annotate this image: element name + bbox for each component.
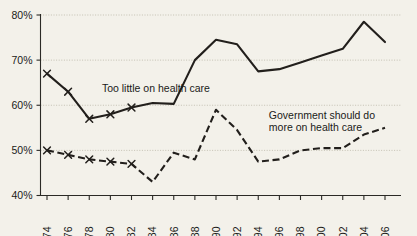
x-tick-label: 1992 <box>231 226 243 236</box>
chart-page: 80%70%60%50%40% 197419761978198019821984… <box>0 0 417 236</box>
x-tick-label: 1998 <box>294 226 306 236</box>
x-tick-label: 1988 <box>189 226 201 236</box>
y-tick-label: 60% <box>11 99 32 111</box>
annotation-too-little-on-health-care: Too little on health care <box>102 82 210 94</box>
x-tick-label: 1996 <box>273 226 285 236</box>
x-tick-label: 2004 <box>358 226 370 236</box>
line-chart: 80%70%60%50%40% 197419761978198019821984… <box>0 0 417 236</box>
annotation-more-on-health-care: more on health care <box>269 121 363 133</box>
x-tick-label: 1994 <box>252 226 264 236</box>
annotation-government-should-do: Government should do <box>269 109 375 121</box>
x-tick-label: 1982 <box>125 226 137 236</box>
x-tick-label: 2002 <box>337 226 349 236</box>
y-tick-label: 40% <box>11 189 32 201</box>
y-tick-label: 80% <box>11 9 32 21</box>
x-tick-label: 1986 <box>168 226 180 236</box>
x-tick-label: 1974 <box>41 226 53 236</box>
y-tick-label: 70% <box>11 54 32 66</box>
x-tick-label: 1980 <box>104 226 116 236</box>
x-tick-label: 2006 <box>379 226 391 236</box>
y-tick-label: 50% <box>11 144 32 156</box>
x-tick-label: 1978 <box>83 226 95 236</box>
x-tick-label: 1984 <box>146 226 158 236</box>
x-tick-label: 1990 <box>210 226 222 236</box>
x-tick-label: 2000 <box>315 226 327 236</box>
x-tick-label: 1976 <box>62 226 74 236</box>
x-tick-labels-group: 1974197619781980198219841986198819901992… <box>41 226 391 236</box>
